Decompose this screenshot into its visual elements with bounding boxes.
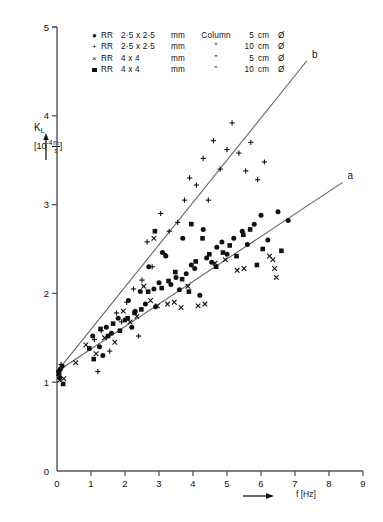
data-point-square: [139, 307, 144, 312]
data-point-circle: [201, 227, 206, 232]
data-point-circle: [245, 242, 250, 247]
data-point-plus: [211, 138, 216, 143]
data-point-square: [61, 382, 66, 387]
data-point-cross: [152, 236, 157, 241]
data-point-plus: [255, 177, 260, 182]
data-point-circle: [138, 289, 143, 294]
data-point-circle: [252, 222, 257, 227]
data-point-square: [193, 259, 198, 264]
data-point-square: [106, 334, 111, 339]
data-point-circle: [265, 238, 270, 243]
data-point-circle: [153, 304, 158, 309]
data-point-square: [279, 248, 284, 253]
data-point-plus: [206, 198, 211, 203]
data-point-cross: [121, 309, 126, 314]
data-point-plus: [107, 349, 112, 354]
data-point-circle: [116, 316, 121, 321]
data-point-square: [207, 252, 212, 257]
data-point-square: [132, 311, 137, 316]
data-point-cross: [203, 302, 208, 307]
y-tick-label: 5: [44, 22, 49, 33]
data-point-square: [173, 270, 178, 275]
axis-arrows-group: [43, 133, 274, 499]
data-point-circle: [231, 236, 236, 241]
data-point-plus: [114, 310, 119, 315]
data-point-plus: [236, 150, 241, 155]
data-point-square: [234, 254, 239, 259]
data-point-plus: [131, 286, 136, 291]
x-tick-label: 4: [190, 478, 195, 489]
figure-container: ● RR 2·5 x 2·5 mm Column 5 cm Ø + RR 2·5…: [0, 0, 383, 522]
data-point-circle: [219, 239, 224, 244]
data-point-circle: [286, 218, 291, 223]
fit-line-a: [57, 182, 343, 371]
data-point-square: [248, 227, 253, 232]
data-point-square: [159, 286, 164, 291]
data-point-square: [187, 289, 192, 294]
plot-area: 0123450123456789 ab: [0, 0, 383, 522]
data-point-square: [57, 371, 62, 376]
data-point-plus: [182, 198, 187, 203]
data-point-circle: [151, 286, 156, 291]
data-point-cross: [165, 302, 170, 307]
data-point-plus: [139, 277, 144, 282]
data-point-cross: [148, 298, 153, 303]
data-point-circle: [157, 280, 162, 285]
x-tick-label: 2: [122, 478, 127, 489]
data-points-group: [56, 120, 291, 386]
data-point-circle: [177, 287, 182, 292]
data-point-square: [118, 328, 123, 333]
data-point-plus: [248, 140, 253, 145]
data-point-square: [260, 247, 265, 252]
data-point-cross: [235, 268, 240, 273]
data-point-cross: [73, 360, 78, 365]
data-point-circle: [197, 293, 202, 298]
data-point-square: [180, 277, 185, 282]
data-point-plus: [95, 369, 100, 374]
data-point-plus: [194, 182, 199, 187]
data-point-circle: [214, 245, 219, 250]
x-tick-label: 6: [258, 478, 263, 489]
x-tick-label: 8: [326, 478, 331, 489]
y-tick-label: 0: [44, 466, 49, 477]
data-point-plus: [136, 333, 141, 338]
x-tick-label: 5: [224, 478, 229, 489]
data-point-square: [189, 222, 194, 227]
data-point-circle: [129, 325, 134, 330]
fit-lines-group: [57, 61, 343, 372]
data-point-square: [166, 279, 171, 284]
data-point-plus: [145, 239, 150, 244]
data-point-cross: [94, 351, 99, 356]
data-point-plus: [201, 156, 206, 161]
x-tick-label: 7: [292, 478, 297, 489]
series-group: [57, 222, 284, 386]
x-tick-label: 3: [156, 478, 161, 489]
data-point-circle: [259, 213, 264, 218]
data-point-cross: [196, 304, 201, 309]
data-point-plus: [224, 147, 229, 152]
data-point-cross: [141, 284, 146, 289]
data-point-circle: [180, 236, 185, 241]
data-point-circle: [225, 252, 230, 257]
data-point-cross: [272, 266, 277, 271]
data-point-circle: [276, 209, 281, 214]
data-point-square: [153, 229, 158, 234]
data-point-square: [98, 327, 103, 332]
curve-label-a: a: [348, 170, 354, 181]
y-tick-label: 2: [44, 288, 49, 299]
y-axis-arrow-head: [43, 133, 49, 140]
data-point-square: [91, 357, 96, 362]
x-tick-label: 1: [88, 478, 93, 489]
data-point-square: [146, 289, 151, 294]
data-point-cross: [242, 266, 247, 271]
data-point-cross: [274, 275, 279, 280]
curve-label-b: b: [312, 49, 318, 60]
x-axis-arrow-head: [266, 493, 274, 499]
data-point-plus: [187, 175, 192, 180]
y-tick-label: 1: [44, 377, 49, 388]
data-point-circle: [97, 344, 102, 349]
data-point-square: [214, 264, 219, 269]
x-tick-label: 0: [54, 478, 59, 489]
data-point-circle: [184, 271, 189, 276]
axes-group: 0123450123456789: [44, 22, 366, 489]
